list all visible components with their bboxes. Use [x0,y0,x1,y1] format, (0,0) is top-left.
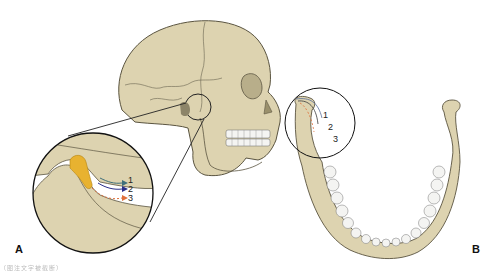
tmj-inset-a: 1 2 3 [30,130,160,260]
path-label-3: 3 [128,193,133,203]
figure-caption-truncated: （图注文字被截断） [0,263,492,271]
skull-illustration [119,21,281,176]
teeth-upper [226,130,270,146]
path-label-b-1: 1 [323,110,328,120]
mandible-illustration: 1 2 3 [285,88,460,259]
panel-label-a: A [15,243,23,255]
tmj-figure: 1 2 3 1 2 [0,0,492,271]
illustration-canvas: 1 2 3 1 2 [0,0,492,271]
path-label-b-3: 3 [333,134,338,144]
path-label-b-2: 2 [328,122,333,132]
zoom-connector-bottom [150,119,204,222]
panel-label-b: B [472,243,480,255]
